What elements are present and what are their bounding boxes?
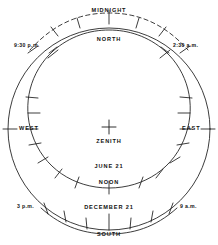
label-time-9-am: 9 a.m. — [180, 204, 197, 209]
label-time-2-30-am: 2:30 a.m. — [173, 43, 198, 48]
sun-path-diagram: MIDNIGHT NORTH 9:30 p.m. 2:30 a.m. WEST … — [0, 0, 218, 245]
zenith-cross — [102, 120, 116, 134]
june21-night-ticks — [51, 18, 166, 36]
label-north: NORTH — [97, 37, 121, 43]
label-east: EAST — [182, 126, 201, 132]
label-zenith: ZENITH — [96, 139, 122, 145]
june21-hour-ticks-right — [139, 97, 192, 188]
label-time-9-30-pm: 9:30 p.m. — [14, 43, 40, 48]
label-west: WEST — [19, 126, 39, 132]
label-noon: NOON — [99, 180, 119, 186]
label-midnight: MIDNIGHT — [92, 8, 127, 14]
crossing-leader-lines — [49, 47, 169, 53]
june21-hour-ticks-left — [26, 97, 79, 188]
label-time-3-pm: 3 p.m. — [17, 204, 34, 209]
label-south: SOUTH — [97, 232, 121, 238]
label-june-21: JUNE 21 — [95, 164, 124, 170]
label-december-21: DECEMBER 21 — [84, 205, 134, 211]
